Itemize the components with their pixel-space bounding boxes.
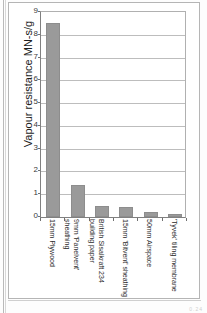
bar (95, 206, 109, 217)
y-axis-tick-label: 3 (24, 144, 38, 152)
x-axis-label-slot: 50mm Airspace (137, 219, 161, 299)
x-axis-label-slot: British Sisalkraft 234 building paper (89, 219, 113, 299)
y-axis-tick-label: 4 (24, 121, 38, 129)
y-axis-tick-label: 6 (24, 75, 38, 83)
y-axis-tick-label: 7 (24, 53, 38, 61)
y-axis-tick-label: 9 (24, 7, 38, 15)
bar (119, 207, 133, 217)
x-axis-label: 9mm 'Panelvent' sheathing (63, 219, 80, 299)
y-axis-tick-labels: 9876543210 (20, 0, 38, 313)
corner-page-mark: 0.24 (189, 306, 203, 312)
x-axis-label: British Sisalkraft 234 building paper (88, 219, 105, 299)
y-axis-tick-label: 5 (24, 98, 38, 106)
bar (144, 212, 158, 217)
chart-figure: Vapour resistance MN-s/g 9876543210 15mm… (0, 0, 207, 313)
page-edge-line-secondary (5, 0, 6, 313)
x-axis-label: 15mm 'Bitvent' sheathing (121, 219, 130, 299)
y-axis-tick-label: 0 (24, 212, 38, 220)
bar-series (41, 12, 185, 217)
x-axis-label: 15mm Plywood (48, 219, 57, 299)
y-axis-tick-label: 2 (24, 166, 38, 174)
x-axis-label: 'Tyvek' tiling membrane (169, 219, 178, 299)
x-axis-label-slot: 15mm Plywood (40, 219, 64, 299)
x-axis-label-slot: 'Tyvek' tiling membrane (162, 219, 186, 299)
bar (71, 185, 85, 217)
x-axis-tick-mark (186, 218, 187, 221)
bar (46, 23, 60, 217)
x-axis-label: 50mm Airspace (145, 219, 154, 299)
x-axis-label-slot: 9mm 'Panelvent' sheathing (64, 219, 88, 299)
x-axis-category-labels: 15mm Plywood9mm 'Panelvent' sheathingBri… (40, 219, 186, 301)
page-edge-line (3, 0, 4, 313)
bar (168, 214, 182, 217)
plot-area (40, 11, 186, 218)
y-axis-tick-label: 1 (24, 189, 38, 197)
x-axis-label-slot: 15mm 'Bitvent' sheathing (113, 219, 137, 299)
y-axis-tick-label: 8 (24, 30, 38, 38)
